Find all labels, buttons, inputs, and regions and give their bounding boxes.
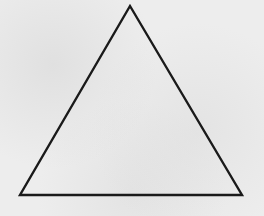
diagram-canvas (0, 0, 264, 216)
triangle-shape (20, 6, 242, 195)
triangle-diagram (0, 0, 264, 216)
